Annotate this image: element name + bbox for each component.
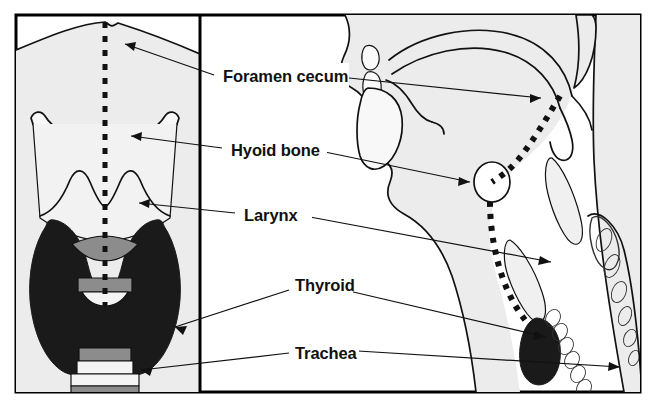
trachea-rings-anterior (71, 348, 139, 394)
label-foramen-cecum-text: Foramen cecum (223, 67, 348, 85)
label-trachea: Trachea (291, 340, 359, 364)
upper-incisor (362, 45, 379, 70)
label-foramen-cecum: Foramen cecum (219, 63, 349, 87)
label-hyoid-bone-text: Hyoid bone (231, 141, 320, 159)
label-thyroid: Thyroid (291, 272, 355, 296)
panel-anterior-view (16, 22, 200, 394)
figure-canvas: Foramen cecum Hyoid bone Larynx Thyroid … (0, 0, 654, 406)
label-larynx-text: Larynx (244, 206, 298, 224)
label-thyroid-text: Thyroid (295, 276, 355, 294)
label-trachea-text: Trachea (295, 344, 358, 362)
anatomy-figure: Foramen cecum Hyoid bone Larynx Thyroid … (0, 0, 654, 406)
label-larynx: Larynx (240, 202, 312, 226)
label-hyoid-bone: Hyoid bone (227, 137, 327, 161)
